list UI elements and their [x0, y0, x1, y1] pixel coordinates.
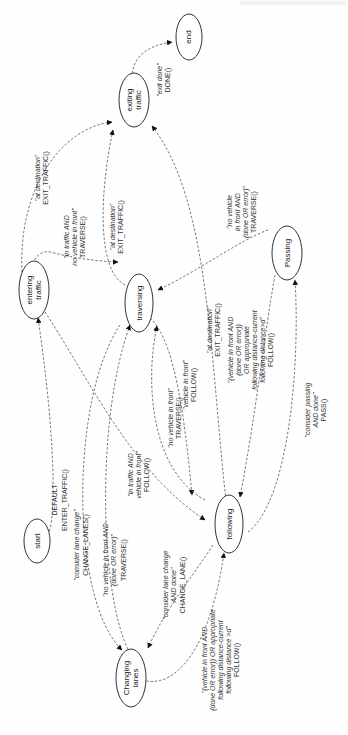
svg-text:in front AND: in front AND: [234, 193, 241, 231]
edge-traversing-to-changing: [83, 325, 122, 650]
label-start-to-entering: DEFAULT ENTER_TRAFFIC(): [51, 469, 69, 531]
svg-text:"no vehicle: "no vehicle: [226, 195, 233, 229]
svg-text:"no vehicle in front AND: "no vehicle in front AND: [102, 523, 109, 597]
svg-text:following distance>d": following distance>d": [259, 317, 267, 383]
svg-text:following distance-current: following distance-current: [251, 309, 259, 389]
svg-text:EXIT_TRAFFIC(): EXIT_TRAFFIC(): [214, 303, 222, 357]
state-diagram: end exiting traffic entering traffic tra…: [0, 0, 348, 735]
node-label: traffic: [134, 90, 143, 109]
svg-text:no vehicle in front": no vehicle in front": [71, 208, 78, 266]
svg-text:following distance >d": following distance >d": [225, 626, 233, 694]
svg-text:"consider lane change: "consider lane change: [162, 550, 170, 619]
svg-text:ENTER_TRAFFIC(): ENTER_TRAFFIC(): [61, 469, 69, 531]
label-traversing-to-changing: "consider lane change" CHANGE_LANES(): [73, 509, 90, 581]
node-label: following: [225, 508, 234, 539]
svg-text:FOLLOW(): FOLLOW(): [143, 458, 151, 492]
svg-text:"vehicle in front": "vehicle in front": [182, 359, 189, 410]
svg-text:DEFAULT: DEFAULT: [51, 484, 58, 516]
node-traversing[interactable]: traversing: [125, 274, 153, 332]
label-following-to-passing: "consider passing AND done" PASS(): [304, 382, 328, 437]
node-label: entering: [25, 276, 34, 305]
svg-text:AND done": AND done": [312, 392, 319, 428]
svg-text:"consider lane change": "consider lane change": [73, 509, 81, 581]
label-traversing-to-following: "vehicle in front" FOLLOW(): [182, 359, 198, 410]
svg-text:OR appropriate: OR appropriate: [243, 326, 251, 374]
edge-passing-to-traversing: [158, 230, 268, 290]
node-end[interactable]: end: [176, 14, 202, 60]
svg-text:"in traffic AND: "in traffic AND: [127, 453, 134, 496]
label-entering-to-traversing: "in traffic AND no vehicle in front" TRA…: [63, 208, 87, 266]
svg-text:CHANGE_LANES(): CHANGE_LANES(): [82, 514, 90, 575]
svg-text:(done OR error)": (done OR error)": [242, 186, 250, 238]
node-label: traversing: [135, 285, 144, 320]
node-start[interactable]: start: [24, 519, 50, 563]
svg-text:"at destination": "at destination": [34, 154, 41, 201]
svg-text:"in traffic AND: "in traffic AND: [63, 215, 70, 258]
svg-text:"no vehicle in front": "no vehicle in front": [167, 388, 174, 448]
svg-text:CHANGE_LANE(): CHANGE_LANE(): [179, 557, 187, 614]
svg-text:TRAVERSE(): TRAVERSE(): [79, 216, 87, 258]
label-traversing-to-exiting: "at destination" EXIT_TRAFFIC(): [109, 200, 125, 254]
svg-text:TRAVERSE(): TRAVERSE(): [175, 397, 183, 439]
node-label: lanes: [131, 668, 140, 687]
node-exiting-traffic[interactable]: exiting traffic: [119, 73, 149, 127]
label-following-to-traversing: "no vehicle in front" TRAVERSE(): [167, 388, 183, 448]
svg-text:FOLLOW(): FOLLOW(): [267, 333, 275, 367]
svg-text:PASS(): PASS(): [320, 399, 328, 422]
diagram-page: end exiting traffic entering traffic tra…: [0, 0, 348, 735]
svg-text:"exit done": "exit done": [156, 63, 163, 97]
svg-text:AND done": AND done": [170, 567, 177, 603]
node-label: exiting: [125, 88, 134, 111]
svg-text:EXIT_TRAFFIC(): EXIT_TRAFFIC(): [117, 200, 125, 254]
svg-text:DONE(): DONE(): [164, 68, 172, 93]
node-entering-traffic[interactable]: entering traffic: [19, 261, 49, 319]
svg-text:"at destination": "at destination": [109, 203, 116, 250]
label-changing-to-following: "(vehicle in front AND (done OR error)) …: [201, 609, 241, 711]
label-entering-to-following: "in traffic AND vehicle in front" FOLLOW…: [127, 451, 151, 499]
label-following-to-exiting: "at destination" EXIT_TRAFFIC(): [206, 303, 222, 357]
svg-text:FOLLOW(): FOLLOW(): [233, 643, 241, 677]
label-following-to-changing: "consider lane change AND done" CHANGE_L…: [162, 550, 187, 619]
node-label: end: [184, 30, 193, 43]
svg-text:FOLLOW(): FOLLOW(): [190, 368, 198, 402]
svg-text:following distance-current: following distance-current: [217, 619, 225, 699]
label-changing-to-traversing: "no vehicle in front AND (done OR error)…: [102, 523, 128, 597]
node-label: Changing: [122, 661, 131, 695]
svg-text:TRAVERSE(): TRAVERSE(): [250, 191, 258, 233]
svg-text:EXIT_TRAFFIC(): EXIT_TRAFFIC(): [42, 151, 50, 205]
node-changing-lanes[interactable]: Changing lanes: [116, 649, 146, 707]
label-entering-to-exiting: "at destination" EXIT_TRAFFIC(): [34, 151, 50, 205]
node-passing[interactable]: Passing: [272, 226, 302, 280]
node-following[interactable]: following: [215, 495, 243, 553]
svg-text:"(vehicle in front AND: "(vehicle in front AND: [227, 317, 235, 383]
svg-text:(done OR error)": (done OR error)": [110, 534, 118, 586]
svg-text:TRAVERSE(): TRAVERSE(): [120, 539, 128, 581]
node-label: start: [33, 532, 42, 548]
label-exiting-to-end: "exit done" DONE(): [156, 63, 172, 97]
label-passing-to-following: "(vehicle in front AND (done OR error)) …: [227, 309, 275, 389]
svg-text:"at destination": "at destination": [206, 306, 213, 353]
svg-text:(done OR error)) OR appropriat: (done OR error)) OR appropriate: [209, 609, 217, 711]
node-label: traffic: [34, 280, 43, 299]
svg-text:"(vehicle in front AND: "(vehicle in front AND: [201, 627, 209, 693]
label-passing-to-traversing: "no vehicle in front AND (done OR error)…: [226, 186, 258, 238]
svg-text:vehicle in front": vehicle in front": [135, 451, 142, 499]
svg-text:(done OR error)): (done OR error)): [235, 324, 243, 376]
node-label: Passing: [283, 239, 292, 267]
svg-text:"consider passing: "consider passing: [304, 382, 312, 437]
